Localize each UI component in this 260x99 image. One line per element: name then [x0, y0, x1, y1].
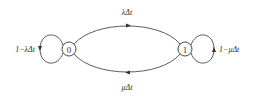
- edge-label-lambda: λΔt: [121, 8, 133, 17]
- self-loop-0: [40, 35, 63, 63]
- edge-1-to-0: [74, 54, 180, 72]
- state-node-1-label: 1: [183, 45, 188, 55]
- state-node-0-label: 0: [67, 45, 72, 55]
- arrow-head-self-loop-1: [212, 47, 216, 52]
- arrow-head-self-loop-0: [38, 46, 42, 51]
- edge-label-mu: μΔt: [121, 83, 134, 92]
- edge-0-to-1: [74, 26, 180, 44]
- self-loop-label-0: 1−λΔt: [15, 45, 36, 54]
- state-diagram: λΔt μΔt 1−λΔt 1−μΔt 0 1: [0, 0, 260, 99]
- self-loop-label-1: 1−μΔt: [219, 45, 240, 54]
- self-loop-1: [191, 35, 214, 63]
- arrow-head-1-to-0: [125, 71, 130, 75]
- arrow-head-0-to-1: [126, 24, 131, 28]
